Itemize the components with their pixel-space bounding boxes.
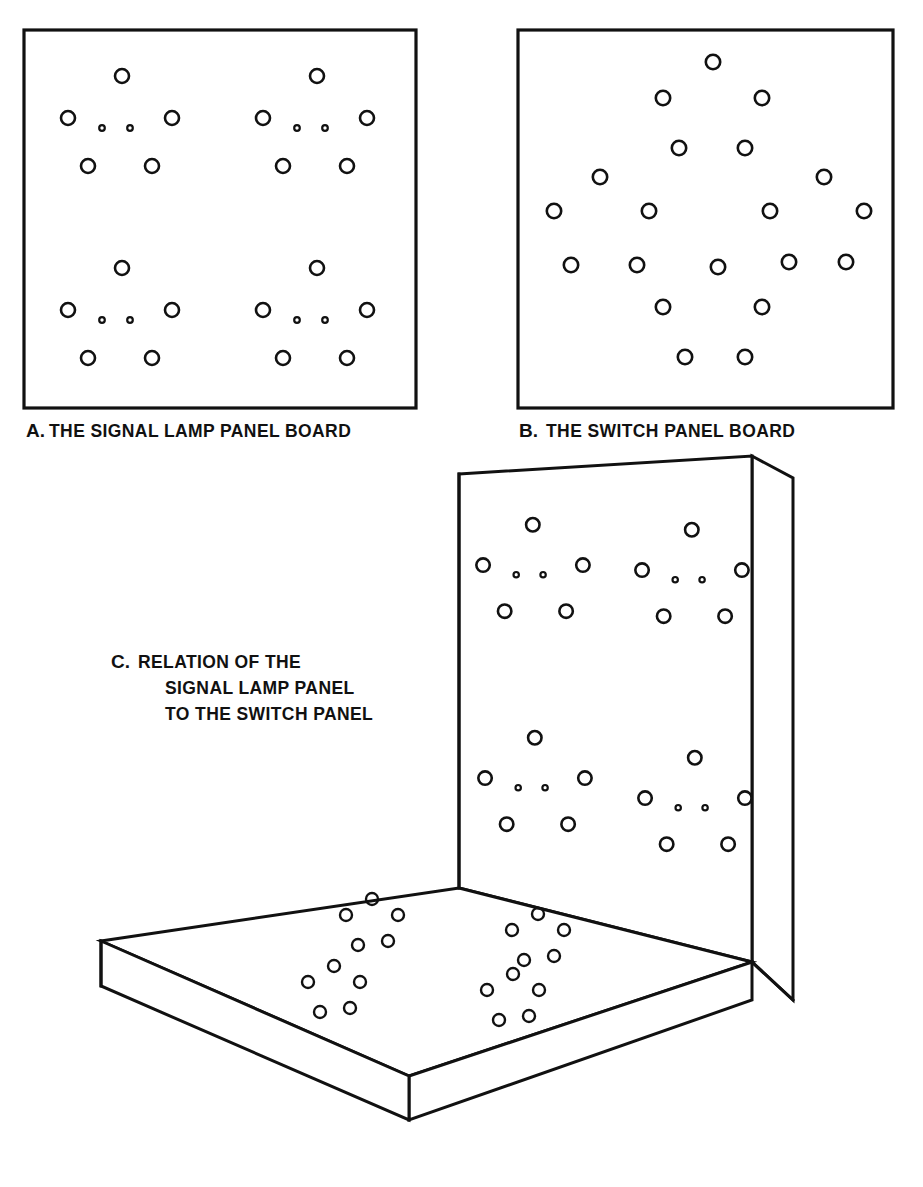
vertical-panel-side-face: [752, 456, 793, 1000]
switch-panel-hole-1: [706, 55, 720, 69]
signal-lamp-hole-large-3: [360, 303, 374, 317]
cluster-top-right: [256, 69, 374, 173]
panel-a-frame: [24, 30, 416, 408]
signal-lamp-hole-large-1: [310, 69, 324, 83]
signal-lamp-hole-large-5: [340, 351, 354, 365]
switch-panel-hole-9: [642, 204, 656, 218]
caption-c-line-3: TO THE SWITCH PANEL: [165, 704, 373, 724]
signal-lamp-hole-small-2: [322, 125, 328, 131]
switch-panel-hole-4: [672, 141, 686, 155]
switch-panel-hole-6: [593, 170, 607, 184]
signal-lamp-hole-large-5: [145, 159, 159, 173]
panel-c-group: [101, 456, 793, 1120]
cluster-bottom-left: [61, 261, 179, 365]
switch-panel-hole-16: [839, 255, 853, 269]
switch-panel-hole-10: [763, 204, 777, 218]
signal-lamp-hole-large-2: [256, 303, 270, 317]
signal-lamp-hole-large-4: [81, 351, 95, 365]
switch-panel-hole-17: [656, 300, 670, 314]
signal-lamp-hole-large-1: [310, 261, 324, 275]
signal-lamp-hole-large-3: [165, 111, 179, 125]
vertical-panel-front-face: [459, 456, 752, 962]
signal-lamp-hole-large-3: [360, 111, 374, 125]
switch-panel-hole-2: [656, 91, 670, 105]
caption-a-text: THE SIGNAL LAMP PANEL BOARD: [49, 421, 351, 441]
panel-b-switch-holes: [547, 55, 871, 364]
signal-lamp-hole-large-2: [61, 111, 75, 125]
panel-b-frame: [518, 30, 893, 408]
signal-lamp-hole-large-4: [276, 159, 290, 173]
signal-lamp-hole-large-2: [256, 111, 270, 125]
switch-panel-hole-14: [711, 260, 725, 274]
signal-lamp-hole-large-4: [81, 159, 95, 173]
signal-lamp-hole-small-2: [127, 317, 133, 323]
caption-b: B. THE SWITCH PANEL BOARD: [519, 420, 795, 441]
switch-panel-hole-7: [817, 170, 831, 184]
switch-panel-hole-19: [678, 350, 692, 364]
signal-lamp-hole-large-5: [145, 351, 159, 365]
signal-lamp-hole-small-1: [294, 317, 300, 323]
caption-c-line-2: SIGNAL LAMP PANEL: [165, 678, 355, 698]
switch-panel-hole-12: [564, 258, 578, 272]
cluster-bottom-right: [256, 261, 374, 365]
switch-panel-hole-5: [738, 141, 752, 155]
caption-a: A. THE SIGNAL LAMP PANEL BOARD: [26, 420, 351, 441]
switch-panel-hole-8: [547, 204, 561, 218]
signal-lamp-hole-small-1: [99, 125, 105, 131]
signal-lamp-hole-small-1: [294, 125, 300, 131]
figure-root: A. THE SIGNAL LAMP PANEL BOARD B. THE SW…: [0, 0, 923, 1187]
caption-c: C. RELATION OF THE SIGNAL LAMP PANEL TO …: [111, 651, 373, 724]
signal-lamp-hole-small-2: [322, 317, 328, 323]
signal-lamp-hole-large-4: [276, 351, 290, 365]
signal-lamp-hole-large-3: [165, 303, 179, 317]
signal-lamp-hole-large-2: [61, 303, 75, 317]
signal-lamp-hole-small-2: [127, 125, 133, 131]
switch-panel-hole-11: [857, 204, 871, 218]
switch-panel-hole-3: [755, 91, 769, 105]
panel-a-lamp-clusters: [61, 69, 374, 365]
technical-figure: A. THE SIGNAL LAMP PANEL BOARD B. THE SW…: [0, 0, 923, 1187]
signal-lamp-hole-large-5: [340, 159, 354, 173]
caption-b-letter: B.: [519, 420, 538, 441]
caption-c-letter: C.: [111, 651, 130, 672]
caption-c-line-1: RELATION OF THE: [138, 652, 301, 672]
signal-lamp-hole-small-1: [99, 317, 105, 323]
switch-panel-hole-18: [755, 300, 769, 314]
caption-a-letter: A.: [26, 420, 45, 441]
signal-lamp-hole-large-1: [115, 69, 129, 83]
panel-a-group: [24, 30, 416, 408]
switch-panel-hole-13: [630, 258, 644, 272]
switch-panel-hole-20: [738, 350, 752, 364]
signal-lamp-hole-large-1: [115, 261, 129, 275]
switch-panel-hole-15: [782, 255, 796, 269]
panel-b-group: [518, 30, 893, 408]
caption-b-text: THE SWITCH PANEL BOARD: [546, 421, 795, 441]
cluster-top-left: [61, 69, 179, 173]
